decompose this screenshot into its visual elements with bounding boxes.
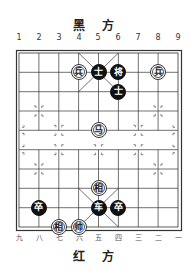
black-chariot-piece[interactable]: 车 bbox=[91, 200, 107, 216]
black-soldier-piece[interactable]: 卒 bbox=[31, 200, 47, 216]
black-advisor-piece[interactable]: 士 bbox=[110, 84, 126, 100]
black-advisor-piece[interactable]: 士 bbox=[91, 64, 107, 80]
red-general-piece[interactable]: 帅 bbox=[71, 219, 87, 235]
red-elephant-piece[interactable]: 相 bbox=[91, 180, 107, 196]
red-horse-piece[interactable]: 马 bbox=[91, 122, 107, 138]
red-elephant-piece[interactable]: 相 bbox=[51, 219, 67, 235]
xiangqi-board bbox=[0, 0, 193, 276]
black-soldier-piece[interactable]: 卒 bbox=[110, 200, 126, 216]
red-soldier-piece[interactable]: 兵 bbox=[71, 64, 87, 80]
